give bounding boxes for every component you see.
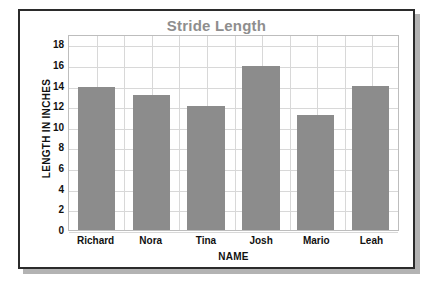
bar-series — [69, 36, 398, 230]
gridline-horizontal — [69, 232, 398, 233]
bar[interactable] — [133, 95, 170, 230]
chart-title: Stride Length — [20, 17, 413, 34]
x-tick-label: Nora — [123, 235, 178, 246]
bar-slot — [124, 36, 179, 230]
x-tick-label: Leah — [344, 235, 399, 246]
y-tick-label: 0 — [40, 226, 64, 236]
plot-area — [68, 35, 399, 231]
x-tick-label: Mario — [289, 235, 344, 246]
y-tick-label: 14 — [40, 82, 64, 92]
bar[interactable] — [297, 115, 334, 230]
bar[interactable] — [78, 87, 115, 230]
bar-slot — [233, 36, 288, 230]
y-tick-label: 16 — [40, 61, 64, 71]
y-tick-label: 10 — [40, 123, 64, 133]
x-axis-label: NAME — [68, 251, 399, 262]
bar-slot — [179, 36, 234, 230]
y-tick-label: 18 — [40, 40, 64, 50]
bar-slot — [343, 36, 398, 230]
bar-slot — [69, 36, 124, 230]
bar[interactable] — [352, 86, 389, 230]
y-axis-tick-labels: 024681012141618 — [40, 35, 64, 231]
y-tick-label: 8 — [40, 143, 64, 153]
bar[interactable] — [187, 106, 224, 230]
y-tick-label: 6 — [40, 164, 64, 174]
bar[interactable] — [242, 66, 279, 230]
x-tick-label: Tina — [178, 235, 233, 246]
chart-card: Stride Length LENGTH IN INCHES 024681012… — [18, 9, 415, 269]
x-axis-tick-labels: RichardNoraTinaJoshMarioLeah — [68, 235, 399, 246]
bar-slot — [288, 36, 343, 230]
y-tick-label: 4 — [40, 185, 64, 195]
x-tick-label: Josh — [234, 235, 289, 246]
y-tick-label: 12 — [40, 102, 64, 112]
y-tick-label: 2 — [40, 205, 64, 215]
x-tick-label: Richard — [68, 235, 123, 246]
